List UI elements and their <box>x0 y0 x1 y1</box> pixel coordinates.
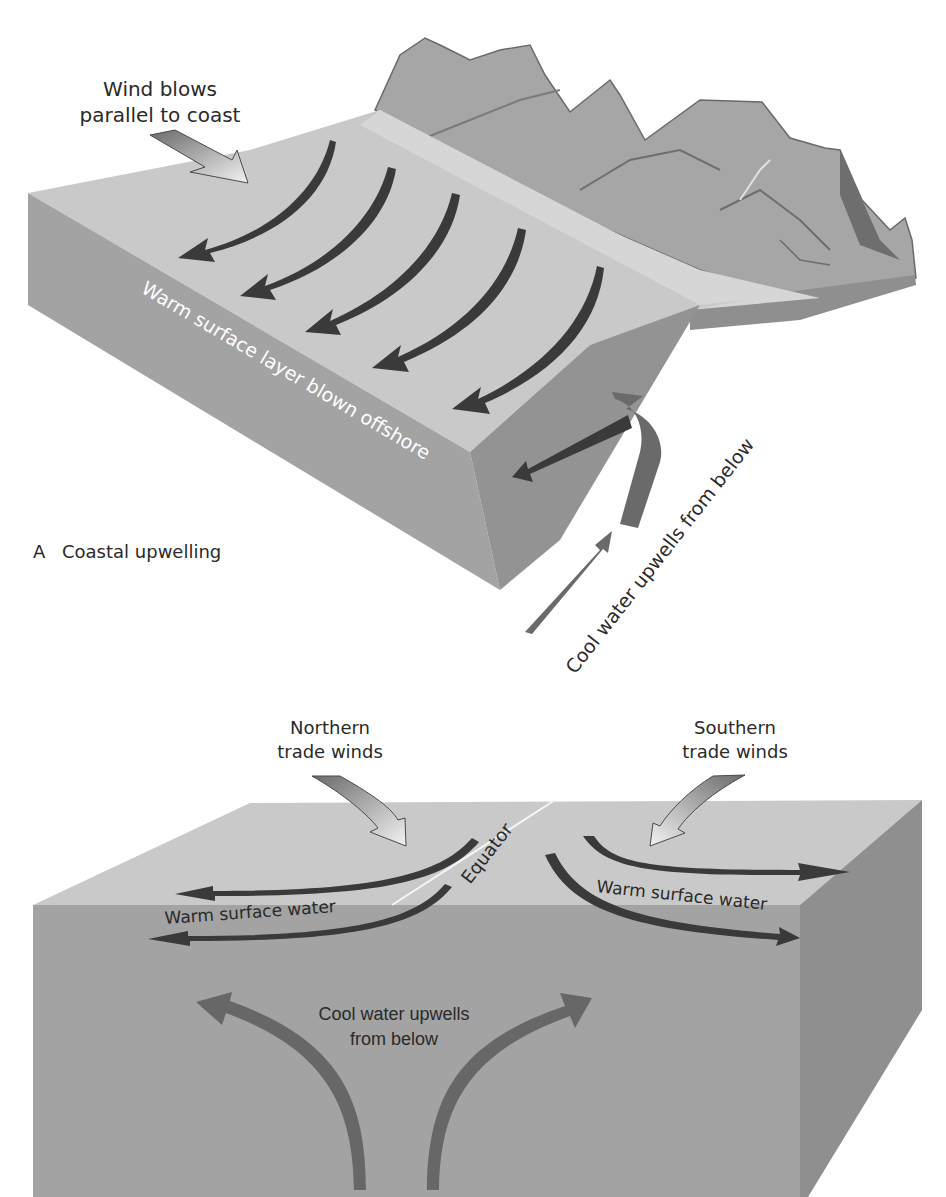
south-wind-label-line2: trade winds <box>682 741 788 762</box>
wind-label-line1: Wind blows <box>103 77 217 101</box>
south-wind-label-line1: Southern <box>694 717 776 738</box>
ocean-front-face-b <box>33 905 800 1197</box>
panel-b-equatorial-upwelling: Equator Northern trade winds Southern tr… <box>33 717 922 1197</box>
cool-water-label-line2: from below <box>350 1029 439 1049</box>
north-wind-label-line1: Northern <box>290 717 370 738</box>
wind-label-line2: parallel to coast <box>80 103 241 127</box>
panel-a-coastal-upwelling: Wind blows parallel to coast Warm surfac… <box>28 38 916 677</box>
panel-a-letter: A <box>33 541 46 562</box>
panel-a-caption: Coastal upwelling <box>62 541 221 562</box>
north-wind-label-line2: trade winds <box>277 741 383 762</box>
ocean-upwelling-diagram: Wind blows parallel to coast Warm surfac… <box>0 0 946 1197</box>
cool-water-label-line1: Cool water upwells <box>318 1004 469 1024</box>
